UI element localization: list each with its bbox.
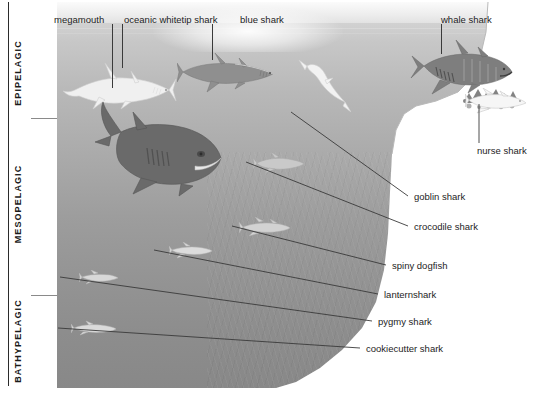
figure-goblin-shark <box>295 60 351 114</box>
callout-oceanic-whitetip-shark: oceanic whitetip shark <box>124 14 217 25</box>
depth-axis-line <box>8 2 9 386</box>
figure-megamouth-shark <box>77 102 227 200</box>
callout-crocodile-shark: crocodile shark <box>414 221 478 232</box>
zone-boundary-tick-mesopelagic <box>31 295 57 296</box>
zone-label-mesopelagic: MESOPELAGIC <box>13 144 23 264</box>
callout-megamouth: megamouth <box>54 14 104 25</box>
zone-label-bathypelagic: BATHYPELAGIC <box>13 281 23 398</box>
callout-lanternshark: lanternshark <box>384 289 436 300</box>
figure-pygmy-shark <box>79 270 119 285</box>
figure-nurse-shark <box>465 88 527 114</box>
callout-blue-shark: blue shark <box>240 14 284 25</box>
leader-line-blue-shark <box>212 24 213 60</box>
zone-label-epipelagic: EPIPELAGIC <box>13 13 23 133</box>
figure-blue-shark <box>177 52 277 94</box>
callout-spiny-dogfish: spiny dogfish <box>392 260 447 271</box>
leader-line-megamouth <box>112 24 113 88</box>
figure-cookiecutter-shark <box>71 320 117 336</box>
figure-crocodile-shark <box>253 152 305 174</box>
callout-cookiecutter-shark: cookiecutter shark <box>366 343 443 354</box>
figure-spiny-dogfish <box>239 217 291 237</box>
shark-depth-diagram: EPIPELAGIC MESOPELAGIC BATHYPELAGIC <box>0 0 536 398</box>
callout-whale-shark: whale shark <box>441 14 492 25</box>
leader-line-oceanic-whitetip <box>122 24 123 68</box>
zone-boundary-tick-epipelagic <box>31 118 57 119</box>
callout-nurse-shark: nurse shark <box>477 145 527 156</box>
leader-line-whale-shark <box>441 24 442 54</box>
figure-lanternshark <box>169 242 213 259</box>
callout-pygmy-shark: pygmy shark <box>378 316 432 327</box>
callout-goblin-shark: goblin shark <box>414 191 465 202</box>
